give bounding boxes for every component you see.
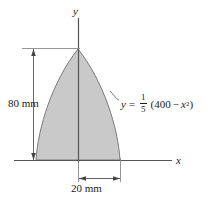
equation-minus-sign: − bbox=[173, 98, 179, 110]
fraction-numerator: 1 bbox=[140, 93, 147, 102]
equation-lhs: y bbox=[121, 98, 126, 110]
base-dim-arrow-left bbox=[79, 176, 86, 180]
height-dimension-label: 80 mm bbox=[8, 98, 39, 109]
base-dimension-label: 20 mm bbox=[71, 183, 102, 194]
equation-leader-line bbox=[110, 91, 119, 100]
curve-equation: y = 1 5 ( 400 − x 2 ) bbox=[121, 93, 193, 115]
equation-fraction: 1 5 bbox=[140, 93, 147, 115]
parabolic-area-figure: y x 80 mm 20 mm y = 1 5 ( 400 − x 2 ) bbox=[0, 0, 213, 202]
equation-equals-sign: = bbox=[129, 98, 135, 110]
fraction-denominator: 5 bbox=[140, 105, 147, 114]
y-axis-label: y bbox=[73, 6, 78, 17]
height-dim-arrow-bottom bbox=[31, 153, 36, 160]
base-dim-arrow-right bbox=[113, 176, 120, 180]
height-dim-arrow-top bbox=[31, 49, 36, 56]
x-axis-label: x bbox=[176, 155, 181, 166]
equation-constant: 400 bbox=[154, 98, 171, 110]
equation-close-paren: ) bbox=[189, 98, 193, 110]
